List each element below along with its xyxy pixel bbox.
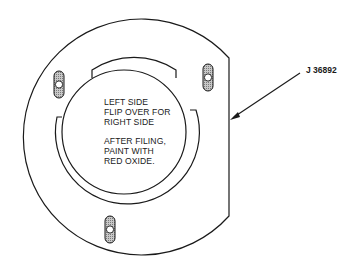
- instruction-note: LEFT SIDE FLIP OVER FOR RIGHT SIDE AFTER…: [104, 97, 171, 166]
- note-line: RED OXIDE.: [104, 156, 171, 166]
- top-arc-segment: [92, 57, 176, 78]
- note-line: FLIP OVER FOR: [104, 107, 171, 117]
- note-line: AFTER FILING,: [104, 136, 171, 146]
- slot-upper-right: [203, 64, 213, 91]
- arrow-icon: [230, 112, 240, 120]
- note-line: PAINT WITH: [104, 146, 171, 156]
- callout-leader: [230, 73, 300, 120]
- note-line: RIGHT SIDE: [104, 117, 171, 127]
- note-line: LEFT SIDE: [104, 97, 171, 107]
- note-gap: [104, 127, 171, 136]
- tool-number-label: J 36892: [306, 65, 337, 75]
- template-diagram: [0, 0, 348, 267]
- slot-upper-left: [54, 71, 64, 98]
- slot-bottom: [105, 216, 115, 243]
